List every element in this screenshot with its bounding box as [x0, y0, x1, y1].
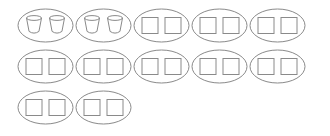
group-square[interactable]	[76, 91, 131, 124]
square-icon	[107, 59, 123, 75]
group-square[interactable]	[18, 91, 73, 124]
group-ellipse	[76, 9, 131, 42]
square-icon	[26, 100, 42, 116]
group-ellipse	[18, 9, 73, 42]
cup-rim	[27, 16, 42, 21]
group-square[interactable]	[192, 9, 247, 42]
group-cup[interactable]	[76, 9, 131, 42]
square-icon	[84, 100, 100, 116]
cup-rim	[108, 16, 123, 21]
square-icon	[49, 59, 65, 75]
square-icon	[142, 59, 158, 75]
group-cup[interactable]	[18, 9, 73, 42]
square-icon	[223, 18, 239, 34]
cup-icon	[27, 16, 42, 33]
square-icon	[165, 18, 181, 34]
square-icon	[49, 100, 65, 116]
cup-icon	[50, 16, 65, 33]
group-square[interactable]	[18, 50, 73, 83]
square-icon	[200, 59, 216, 75]
group-square[interactable]	[192, 50, 247, 83]
square-icon	[26, 59, 42, 75]
grouped-counting-diagram	[0, 0, 330, 136]
cup-icon	[85, 16, 100, 33]
cup-rim	[50, 16, 65, 21]
square-icon	[84, 59, 100, 75]
group-square[interactable]	[134, 9, 189, 42]
group-square[interactable]	[250, 9, 305, 42]
diagram-canvas	[0, 0, 330, 136]
square-icon	[223, 59, 239, 75]
square-icon	[281, 18, 297, 34]
cup-rim	[85, 16, 100, 21]
square-icon	[107, 100, 123, 116]
cup-icon	[108, 16, 123, 33]
square-icon	[258, 59, 274, 75]
group-square[interactable]	[76, 50, 131, 83]
square-icon	[281, 59, 297, 75]
group-square[interactable]	[134, 50, 189, 83]
square-icon	[142, 18, 158, 34]
group-square[interactable]	[250, 50, 305, 83]
square-icon	[258, 18, 274, 34]
square-icon	[165, 59, 181, 75]
square-icon	[200, 18, 216, 34]
